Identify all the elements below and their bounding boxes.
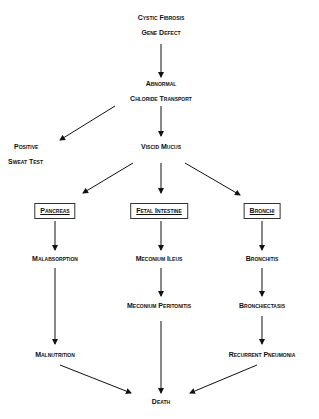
node-viscid-mucus: Viscid Mucus	[141, 143, 181, 151]
node-malabsorption: Malabsorption	[32, 255, 78, 263]
node-recurrent-pneumonia: Recurrent Pneumonia	[229, 351, 296, 359]
node-gene-defect-line2: Gene Defect	[141, 29, 180, 37]
cystic-fibrosis-flowchart: Cystic Fibrosis Gene Defect Abnormal Chl…	[0, 0, 319, 419]
node-sweat-test-line2: Sweat Test	[8, 158, 43, 166]
node-fetal-intestine-label: Fetal Intestine	[136, 207, 182, 214]
node-meconium-peritonitis: Meconium Peritonitis	[127, 302, 191, 310]
node-fetal-intestine-box: Fetal Intestine	[130, 203, 188, 219]
node-malnutrition: Malnutrition	[35, 351, 75, 359]
node-abnormal-line1: Abnormal	[146, 80, 177, 88]
node-death: Death	[152, 398, 170, 406]
node-pancreas-label: Pancreas	[40, 207, 69, 214]
node-meconium-ileus: Meconium Ileus	[136, 255, 183, 263]
node-pancreas-box: Pancreas	[34, 203, 75, 219]
node-bronchitis: Bronchitis	[246, 255, 279, 263]
node-bronchi-label: Bronchi	[250, 207, 275, 214]
node-bronchiectasis: Bronchiectasis	[239, 302, 285, 310]
node-chloride-transport-line2: Chloride Transport	[130, 95, 192, 103]
node-bronchi-box: Bronchi	[244, 203, 281, 219]
node-cystic-fibrosis-line1: Cystic Fibrosis	[138, 14, 185, 22]
node-positive-sweat-line1: Positive	[14, 143, 38, 151]
